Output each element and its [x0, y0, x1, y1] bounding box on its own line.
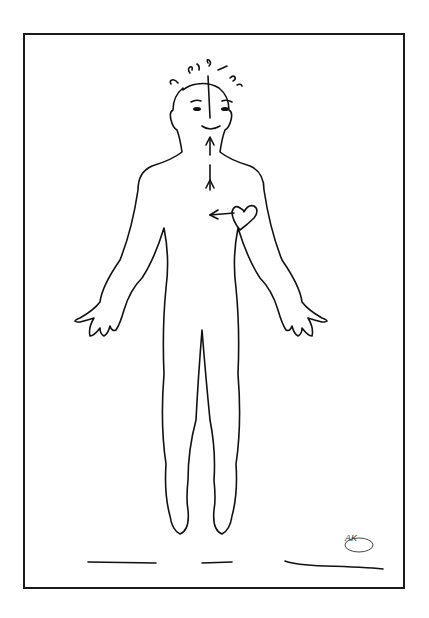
heart: [232, 206, 257, 230]
figure-outline: [75, 84, 327, 535]
left-eye: [193, 107, 201, 111]
ground-line: [88, 561, 383, 569]
smile: [202, 126, 220, 129]
right-eye: [221, 107, 229, 111]
signature-text: AK: [345, 533, 357, 543]
figure-drawing: [0, 0, 429, 618]
hair: [170, 60, 242, 86]
